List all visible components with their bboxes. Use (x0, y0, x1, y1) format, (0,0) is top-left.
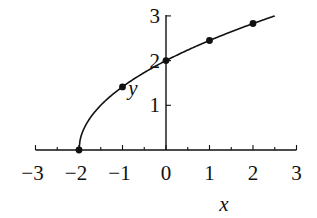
y-axis-label: y (126, 76, 138, 100)
data-point (119, 84, 126, 91)
data-point (250, 20, 257, 27)
x-tick-label: −2 (65, 161, 87, 185)
data-point (163, 57, 170, 64)
x-tick-label: 0 (161, 161, 172, 185)
y-tick-label: 1 (150, 93, 161, 117)
tick-labels: −3−2−10123123 (21, 4, 301, 185)
x-tick-label: 3 (291, 161, 302, 185)
y-tick-label: 3 (150, 4, 161, 28)
function-curve (79, 16, 275, 150)
y-tick-label: 2 (150, 49, 161, 73)
x-tick-label: 1 (204, 161, 215, 185)
x-tick-label: 2 (248, 161, 259, 185)
data-point (206, 37, 213, 44)
x-tick-label: −3 (21, 161, 43, 185)
plot-canvas: −3−2−10123123 x y (0, 0, 317, 218)
x-axis-label: x (218, 192, 229, 216)
data-point (76, 147, 83, 154)
axes (36, 15, 297, 150)
function-plot: −3−2−10123123 x y (0, 0, 317, 218)
x-tick-label: −1 (108, 161, 130, 185)
